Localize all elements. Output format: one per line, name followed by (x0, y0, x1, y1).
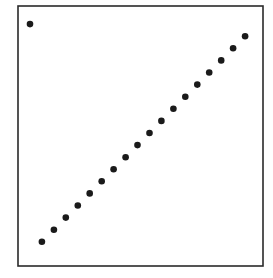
scatter-point (182, 93, 189, 100)
scatter-point (63, 214, 70, 221)
scatter-point (242, 33, 249, 40)
scatter-point (146, 130, 153, 137)
scatter-point (86, 190, 93, 197)
scatter-point (170, 106, 177, 113)
scatter-point-outlier (27, 21, 34, 28)
scatter-point (194, 81, 201, 88)
scatter-plot (0, 0, 273, 278)
scatter-point (98, 178, 105, 185)
scatter-point (51, 226, 58, 233)
scatter-point (134, 142, 141, 149)
scatter-point (39, 239, 46, 246)
scatter-point (206, 69, 213, 76)
scatter-point (158, 118, 165, 125)
points-layer (27, 21, 249, 245)
scatter-point (218, 57, 225, 64)
scatter-point (230, 45, 237, 52)
scatter-point (110, 166, 117, 173)
scatter-point (75, 202, 82, 209)
scatter-point (122, 154, 129, 161)
